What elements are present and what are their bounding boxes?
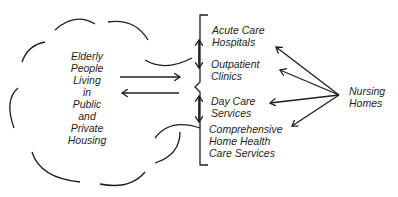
diagram-lines <box>0 0 398 197</box>
services-bracket <box>195 15 208 165</box>
label-line: Outpatient <box>211 58 259 70</box>
label-line: Homes <box>349 97 385 109</box>
label-line: Comprehensive <box>209 123 283 135</box>
label-line: Acute Care <box>212 24 265 36</box>
label-line: Housing <box>62 134 112 146</box>
label-line: Day Care <box>211 95 255 107</box>
service-outpatient-clinics: Outpatient Clinics <box>211 58 259 82</box>
cloud-arrows <box>120 77 180 93</box>
elderly-people-label: Elderly People Living in Public and Priv… <box>62 50 112 146</box>
label-line: Public <box>62 98 112 110</box>
service-day-care: Day Care Services <box>211 95 255 119</box>
nursing-arrows <box>270 47 339 126</box>
label-line: Home Health <box>209 135 283 147</box>
nursing-homes-label: Nursing Homes <box>349 85 385 109</box>
label-line: Clinics <box>211 70 259 82</box>
label-line: in <box>62 86 112 98</box>
care-services-diagram: Elderly People Living in Public and Priv… <box>0 0 398 197</box>
label-line: People <box>62 62 112 74</box>
service-home-health: Comprehensive Home Health Care Services <box>209 123 283 159</box>
label-line: Elderly <box>62 50 112 62</box>
label-line: and <box>62 110 112 122</box>
label-line: Living <box>62 74 112 86</box>
label-line: Services <box>211 107 255 119</box>
label-line: Hospitals <box>212 36 265 48</box>
label-line: Care Services <box>209 147 283 159</box>
label-line: Private <box>62 122 112 134</box>
service-acute-care-hospitals: Acute Care Hospitals <box>212 24 265 48</box>
label-line: Nursing <box>349 85 385 97</box>
